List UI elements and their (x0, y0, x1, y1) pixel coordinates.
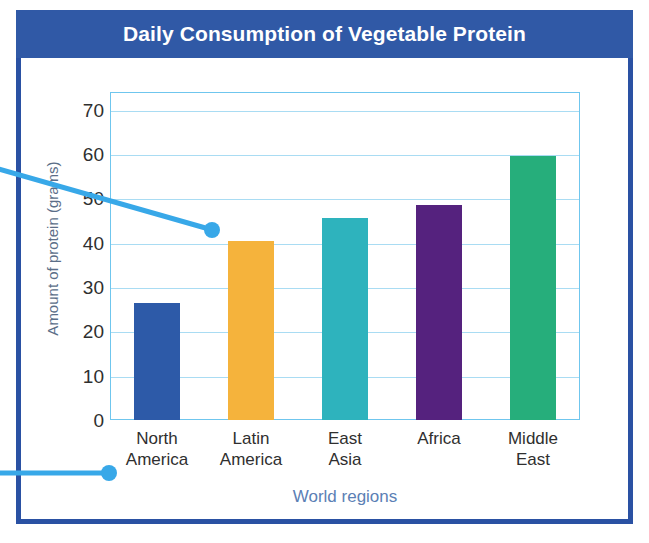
x-tick-label: MiddleEast (486, 428, 580, 471)
x-tick-label-line: America (204, 449, 298, 470)
y-tick-label: 40 (64, 234, 104, 253)
bar-slot (110, 92, 204, 420)
y-tick-label: 60 (64, 145, 104, 164)
chart-title-banner: Daily Consumption of Vegetable Protein (16, 10, 633, 58)
bar-slot (204, 92, 298, 420)
y-tick-label: 30 (64, 278, 104, 297)
x-tick-label-line: Middle (486, 428, 580, 449)
x-tick-label-line: Africa (392, 428, 486, 449)
bar-slot (298, 92, 392, 420)
bar-latin-america[interactable] (228, 241, 274, 421)
y-axis-tick-labels: 010203040506070 (58, 92, 104, 420)
bar-middle-east[interactable] (510, 156, 556, 420)
y-tick-label: 50 (64, 189, 104, 208)
y-axis-title: Amount of protein (grams) (44, 119, 61, 379)
y-tick-label: 10 (64, 367, 104, 386)
bars-layer (110, 92, 580, 420)
y-tick-label: 20 (64, 322, 104, 341)
x-tick-label-line: North (110, 428, 204, 449)
x-tick-label: NorthAmerica (110, 428, 204, 471)
x-axis-title: World regions (110, 487, 580, 507)
chart-figure: Daily Consumption of Vegetable Protein 0… (0, 0, 649, 543)
bar-east-asia[interactable] (322, 218, 368, 420)
x-tick-label-line: Latin (204, 428, 298, 449)
x-axis-tick-labels: NorthAmericaLatinAmericaEastAsiaAfricaMi… (110, 428, 580, 484)
bar-slot (486, 92, 580, 420)
y-tick-label: 0 (64, 411, 104, 430)
x-tick-label-line: Asia (298, 449, 392, 470)
y-tick-label: 70 (64, 101, 104, 120)
x-tick-label-line: America (110, 449, 204, 470)
bar-slot (392, 92, 486, 420)
x-tick-label: Africa (392, 428, 486, 449)
bar-north-america[interactable] (134, 303, 180, 420)
x-tick-label: LatinAmerica (204, 428, 298, 471)
chart-title: Daily Consumption of Vegetable Protein (123, 22, 526, 46)
x-tick-label-line: East (298, 428, 392, 449)
x-tick-label-line: East (486, 449, 580, 470)
bar-africa[interactable] (416, 205, 462, 420)
x-tick-label: EastAsia (298, 428, 392, 471)
